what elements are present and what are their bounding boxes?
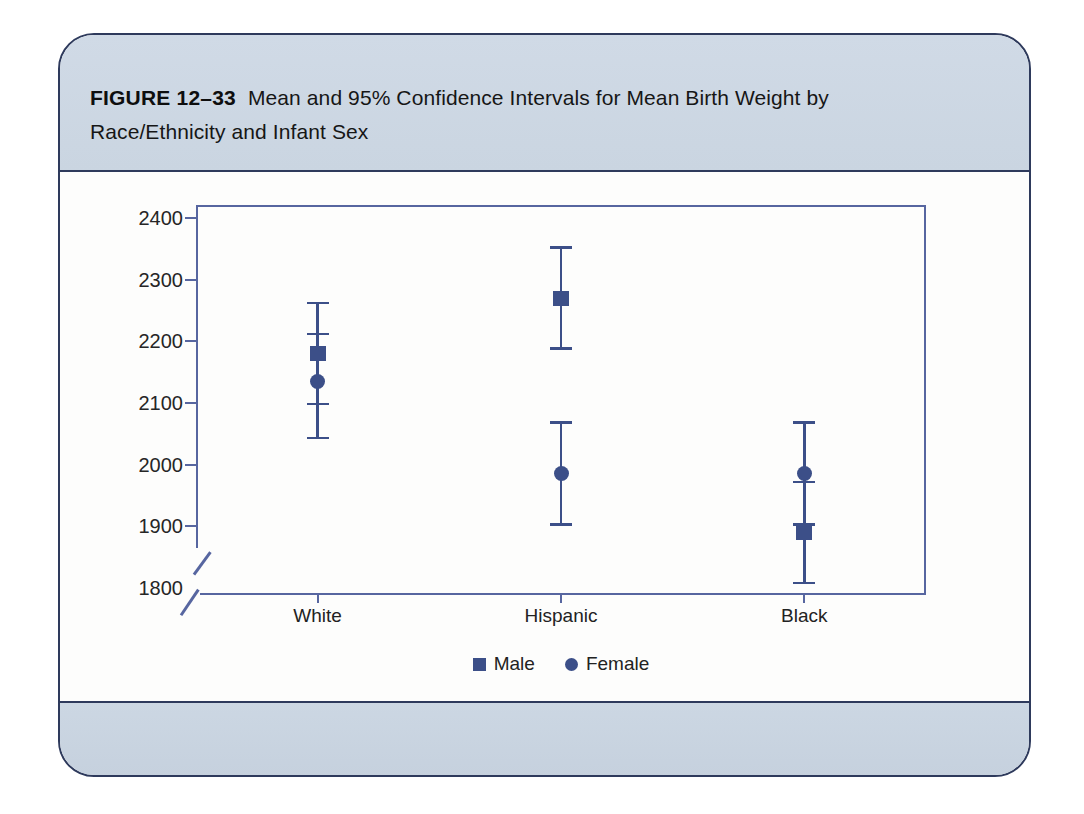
ci-cap-upper	[793, 421, 815, 424]
x-tick-label: Black	[734, 605, 874, 627]
figure-header-band: FIGURE 12–33Mean and 95% Confidence Inte…	[60, 35, 1029, 172]
marker-male-black	[796, 525, 812, 540]
x-axis-tick	[560, 593, 562, 603]
x-axis-tick	[317, 593, 319, 603]
y-axis-tick	[185, 340, 196, 342]
figure-card: FIGURE 12–33Mean and 95% Confidence Inte…	[58, 33, 1031, 777]
x-tick-label: Hispanic	[491, 605, 631, 627]
ci-cap-upper	[307, 302, 329, 305]
y-tick-label: 2000	[111, 453, 183, 477]
legend-circle-icon	[565, 658, 578, 671]
y-tick-label: 1800	[111, 576, 183, 600]
figure-caption: FIGURE 12–33Mean and 95% Confidence Inte…	[90, 81, 961, 149]
y-axis-tick	[185, 402, 196, 404]
y-tick-label: 1900	[111, 514, 183, 538]
marker-female-hispanic	[554, 466, 569, 481]
marker-male-hispanic	[553, 291, 569, 306]
ci-cap-upper	[550, 421, 572, 424]
ci-cap-upper	[550, 246, 572, 249]
ci-cap-lower	[550, 347, 572, 350]
y-tick-label: 2100	[111, 391, 183, 415]
legend-item-male: Male	[473, 653, 535, 675]
legend-square-icon	[473, 658, 486, 671]
chart-legend: MaleFemale	[196, 652, 926, 676]
figure-body: 2400230022002100200019001800WhiteHispani…	[60, 172, 1029, 701]
y-tick-label: 2300	[111, 268, 183, 292]
y-axis-tick	[185, 525, 196, 527]
chart-canvas: 2400230022002100200019001800WhiteHispani…	[60, 172, 1029, 701]
y-axis-tick	[185, 464, 196, 466]
y-tick-label: 2400	[111, 206, 183, 230]
ci-cap-lower	[793, 582, 815, 585]
x-tick-label: White	[248, 605, 388, 627]
plot-border-bottom	[200, 593, 926, 595]
marker-female-white	[310, 374, 325, 389]
plot-border-top	[196, 205, 926, 207]
ci-cap-lower	[550, 523, 572, 526]
axis-break-slash	[193, 551, 211, 575]
y-axis-tick	[185, 217, 196, 219]
y-tick-label: 2200	[111, 329, 183, 353]
ci-cap-lower	[307, 437, 329, 440]
legend-label: Male	[494, 653, 535, 675]
figure-label: FIGURE 12–33	[90, 86, 236, 109]
x-axis-tick	[803, 593, 805, 603]
y-axis-tick	[185, 279, 196, 281]
y-axis-line	[196, 205, 198, 548]
plot-border-right	[924, 205, 926, 595]
marker-female-black	[797, 466, 812, 481]
ci-cap-upper	[307, 333, 329, 336]
legend-label: Female	[586, 653, 649, 675]
figure-footer-band	[60, 701, 1029, 775]
marker-male-white	[310, 346, 326, 361]
page-background: FIGURE 12–33Mean and 95% Confidence Inte…	[0, 0, 1084, 814]
legend-item-female: Female	[565, 653, 649, 675]
